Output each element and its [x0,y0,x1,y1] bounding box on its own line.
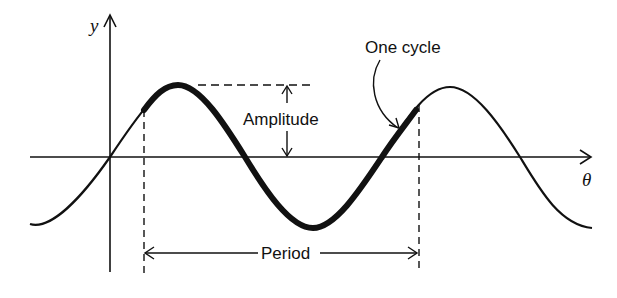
one-cycle-label: One cycle [365,38,441,57]
y-axis-label: y [88,15,99,36]
x-axis-label: θ [582,169,591,190]
amplitude-label: Amplitude [243,110,319,129]
period-label: Period [261,244,310,263]
one-cycle-pointer [374,60,399,128]
sine-wave-diagram: y θ Amplitude Period One cycle [0,0,617,298]
y-axis [104,15,116,272]
